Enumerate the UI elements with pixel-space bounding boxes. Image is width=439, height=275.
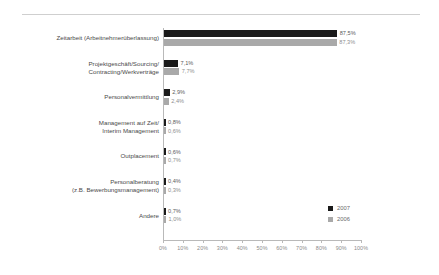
x-tick-label: 100% (354, 245, 368, 251)
bar-value-label: 0,6% (168, 128, 181, 135)
x-tick (341, 240, 342, 243)
bar-value-label: 0,3% (168, 187, 181, 194)
bar-value-label: 7,7% (182, 68, 195, 75)
bar-fill (164, 216, 166, 223)
legend-item-2006[interactable]: 2006 (328, 216, 350, 222)
category-label: Zeitarbeit (Arbeitnehmerüberlassung) (9, 34, 159, 42)
bar-value-label: 2,9% (172, 89, 185, 96)
bar-value-label: 87,5% (340, 30, 356, 37)
x-tick (222, 240, 223, 243)
x-tick (361, 240, 362, 243)
x-tick (242, 240, 243, 243)
category-label: Personalvermittlung (9, 93, 159, 101)
bar-fill (164, 178, 166, 185)
x-tick (163, 240, 164, 243)
bar-fill (164, 127, 166, 134)
category-label: Outplacement (9, 152, 159, 160)
x-tick (321, 240, 322, 243)
x-tick-label: 70% (296, 245, 307, 251)
x-tick-label: 0% (159, 245, 167, 251)
legend-swatch-2006 (328, 217, 333, 222)
x-tick-label: 10% (177, 245, 188, 251)
bar-fill (164, 208, 166, 215)
bar-value-label: 0,6% (168, 149, 181, 156)
bar-fill (164, 68, 179, 75)
x-tick-label: 80% (316, 245, 327, 251)
legend-item-2007[interactable]: 2007 (328, 205, 350, 211)
x-tick-label: 40% (237, 245, 248, 251)
bar-value-label: 0,7% (168, 208, 181, 215)
bar-value-label: 87,3% (339, 39, 355, 46)
x-tick-label: 60% (276, 245, 287, 251)
category-label: Andere (9, 212, 159, 220)
bar-fill (164, 39, 337, 46)
category-label: Personalberatung (z.B. Bewerbungsmanagem… (9, 178, 159, 194)
x-tick (203, 240, 204, 243)
bar-fill (164, 157, 166, 164)
chart-legend: 2007 2006 (328, 205, 350, 227)
bar-fill (164, 89, 170, 96)
chart-page: Zeitarbeit (Arbeitnehmerüberlassung)87,5… (0, 0, 439, 275)
bar-value-label: 0,8% (168, 119, 181, 126)
x-tick (262, 240, 263, 243)
bar-fill (164, 119, 166, 126)
category-label: Projektgeschäft/Sourcing/ Contracting/We… (9, 60, 159, 76)
x-tick-label: 50% (256, 245, 267, 251)
bar-fill (164, 148, 166, 155)
bar-fill (164, 98, 169, 105)
category-label: Management auf Zeit/ Interim Management (9, 119, 159, 135)
bar-value-label: 0,4% (168, 178, 181, 185)
bar-value-label: 1,0% (168, 216, 181, 223)
bar-fill (164, 60, 178, 67)
legend-swatch-2007 (328, 206, 333, 211)
x-tick-label: 90% (336, 245, 347, 251)
bar-value-label: 2,4% (171, 98, 184, 105)
x-tick-label: 30% (217, 245, 228, 251)
x-tick (282, 240, 283, 243)
legend-label-2007: 2007 (337, 205, 350, 211)
bar-value-label: 0,7% (168, 157, 181, 164)
x-tick-label: 20% (197, 245, 208, 251)
bar-fill (164, 30, 337, 37)
header-divider (22, 14, 420, 15)
x-tick (183, 240, 184, 243)
bar-chart: Zeitarbeit (Arbeitnehmerüberlassung)87,5… (0, 22, 439, 252)
bar-fill (164, 187, 166, 194)
bar-value-label: 7,1% (181, 60, 194, 67)
legend-label-2006: 2006 (337, 216, 350, 222)
x-tick (302, 240, 303, 243)
